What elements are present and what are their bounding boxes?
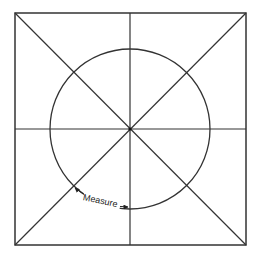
center-point — [128, 127, 131, 130]
measure-label: Measure — [82, 192, 118, 209]
geometry-diagram: Measure — [0, 0, 258, 254]
